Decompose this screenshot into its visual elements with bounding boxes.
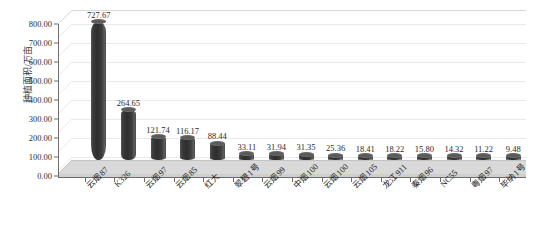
- y-axis-tick-label: 800.00: [29, 19, 52, 29]
- y-axis-tick-label: 300.00: [29, 114, 52, 124]
- bar-body: [151, 137, 166, 160]
- gridline-depth: [58, 62, 72, 76]
- gridline-depth: [58, 81, 72, 95]
- bar-body: [91, 22, 106, 160]
- gridline-depth: [58, 119, 72, 133]
- gridline-depth: [58, 138, 72, 152]
- bar-value-label: 121.74: [146, 125, 169, 135]
- bar-top-cap: [358, 153, 373, 158]
- bar-value-label: 31.35: [296, 142, 315, 152]
- bar[interactable]: 88.44: [210, 143, 225, 160]
- y-axis-tick-label: 500.00: [29, 76, 52, 86]
- bar-chart: 种植面积/万亩 0.00100.00200.00300.00400.00500.…: [0, 0, 538, 232]
- gridline-depth: [58, 100, 72, 114]
- bar-value-label: 9.48: [506, 144, 521, 154]
- plot-area: 727.67264.65121.74116.1788.4433.1131.943…: [58, 10, 526, 178]
- gridline-depth: [58, 24, 72, 38]
- bar[interactable]: 31.94: [269, 154, 284, 160]
- bar-value-label: 18.22: [385, 144, 404, 154]
- bar-value-label: 116.17: [176, 126, 199, 136]
- y-axis-tick-label: 600.00: [29, 57, 52, 67]
- bar[interactable]: 11.22: [476, 156, 491, 161]
- y-axis-tick-label: 0.00: [37, 171, 52, 181]
- y-axis-line: [58, 24, 59, 178]
- gridline: [72, 62, 526, 63]
- gridline: [72, 81, 526, 82]
- bar-value-label: 11.22: [474, 144, 493, 154]
- bar-top-cap: [506, 153, 521, 158]
- y-axis-tick-label: 400.00: [29, 95, 52, 105]
- bar-body: [121, 110, 136, 160]
- gridline: [72, 43, 526, 44]
- bar-top-cap: [476, 153, 491, 158]
- chart-back-wall: [72, 10, 526, 162]
- bar-top-cap: [210, 141, 225, 146]
- bar-body: [210, 143, 225, 160]
- y-axis-tick-label: 100.00: [29, 152, 52, 162]
- bar[interactable]: 116.17: [180, 138, 195, 160]
- bar-value-label: 727.67: [87, 10, 110, 20]
- bar[interactable]: 264.65: [121, 110, 136, 160]
- bar-value-label: 264.65: [117, 98, 140, 108]
- x-axis-category-labels: 云烟87K326云烟97云烟85红大翠碧1号云烟99中烟100云烟100云烟10…: [58, 182, 526, 232]
- bar[interactable]: 727.67: [91, 22, 106, 160]
- gridline-depth: [58, 43, 72, 57]
- bar-value-label: 18.41: [356, 144, 375, 154]
- y-axis-tick-label: 700.00: [29, 38, 52, 48]
- y-axis-tick-labels: 0.00100.00200.00300.00400.00500.00600.00…: [14, 0, 58, 232]
- bar-value-label: 25.36: [326, 143, 345, 153]
- gridline: [72, 24, 526, 25]
- bar-value-label: 31.94: [267, 142, 286, 152]
- y-axis-tick-label: 200.00: [29, 133, 52, 143]
- bar[interactable]: 15.80: [417, 156, 432, 161]
- bar-value-label: 33.11: [237, 142, 256, 152]
- bar-top-cap: [417, 153, 432, 158]
- gridline: [72, 100, 526, 101]
- bar-top-cap: [91, 19, 106, 24]
- gridline: [72, 119, 526, 120]
- bar-value-label: 14.32: [444, 144, 463, 154]
- bar-value-label: 15.80: [415, 144, 434, 154]
- bar-top-cap: [328, 153, 343, 158]
- bar[interactable]: 14.32: [447, 156, 462, 161]
- gridline: [72, 138, 526, 139]
- bar-top-cap: [299, 152, 314, 157]
- bar-body: [180, 138, 195, 160]
- bar-top-cap: [447, 153, 462, 158]
- bar[interactable]: 121.74: [151, 137, 166, 160]
- bar-value-label: 88.44: [208, 131, 227, 141]
